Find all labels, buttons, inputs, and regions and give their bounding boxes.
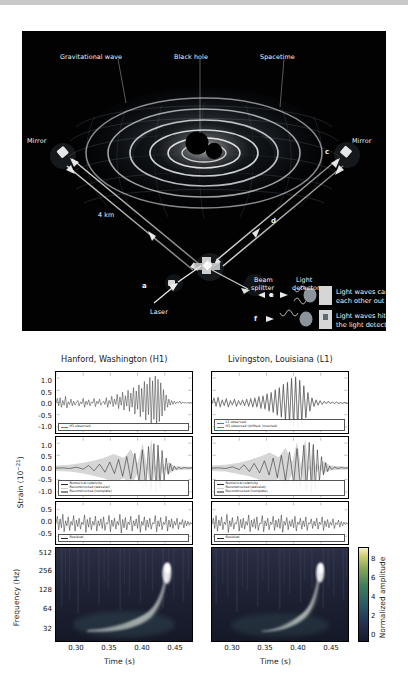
- ytick-freq-512: 512: [20, 549, 52, 557]
- legend-key-nr-l1: [217, 484, 224, 485]
- strain-plots: Hanford, Washington (H1) Livingston, Lou…: [0, 340, 408, 685]
- legend-l1-residual: Residual: [214, 534, 345, 542]
- ytick-r3-0p5: 0.5: [28, 506, 52, 514]
- ytick-freq-256: 256: [20, 567, 52, 575]
- cbtick-0: 0: [371, 631, 383, 639]
- cbtick-8: 8: [371, 555, 383, 563]
- ytick-r3-0p0: 0.0: [28, 518, 52, 526]
- l1-spectrogram-image: [212, 548, 348, 641]
- xtick-l1-040: 0.40: [287, 644, 309, 652]
- legend-key-nr-h1: [61, 484, 68, 485]
- ytick-r1-0p5: 0.5: [28, 389, 52, 397]
- panel-h1-residual: Residual: [55, 501, 193, 545]
- interferometer-diagram: Gravitational wave Black hole Spacetime …: [22, 31, 386, 331]
- panel-l1-spectrogram: [211, 547, 349, 642]
- marker-e: e: [269, 291, 274, 299]
- marker-a: a: [142, 282, 147, 290]
- marker-f: f: [254, 315, 257, 323]
- legend-h1-residual: Residual: [58, 534, 189, 542]
- legend-key-residual-l1: [217, 538, 224, 539]
- label-arm-length: 4 km: [98, 211, 114, 219]
- xtick-h1-030: 0.30: [65, 644, 87, 652]
- panel-h1-observed: H1 observed: [55, 371, 193, 434]
- diagram-graphics: [22, 31, 386, 331]
- ytick-r3-m0p5: -0.5: [24, 530, 52, 538]
- label-mirror-left: Mirror: [27, 137, 46, 145]
- label-gravitational-wave: Gravitational wave: [60, 53, 122, 61]
- ytick-r2-m1p0: -1.0: [24, 488, 52, 496]
- legend-key-wavelet-h1: [61, 488, 68, 489]
- cbtick-6: 6: [371, 574, 383, 582]
- panel-l1-residual: Residual: [211, 501, 349, 545]
- cbtick-2: 2: [371, 612, 383, 620]
- title-hanford: Hanford, Washington (H1): [61, 354, 167, 364]
- label-beam-splitter-line1: Beam: [254, 276, 273, 284]
- legend-text-residual-h1: Residual: [70, 536, 84, 540]
- marker-b: b: [207, 260, 212, 268]
- legend-key-h1-shift: [217, 427, 224, 428]
- label-cancel-line1: Light waves cancel: [336, 288, 386, 297]
- panel-h1-spectrogram: [55, 547, 193, 642]
- xlabel-l1: Time (s): [260, 657, 291, 666]
- legend-key-h1: [61, 427, 68, 428]
- panel-l1-observed: L1 observed H1 observed (shifted, invert…: [211, 371, 349, 434]
- ytick-r2-0p0: 0.0: [28, 465, 52, 473]
- panel-h1-reconstructed: Numerical relativity Reconstructed (wave…: [55, 436, 193, 499]
- title-livingston: Livingston, Louisiana (L1): [228, 354, 333, 364]
- colorbar: [358, 547, 369, 642]
- marker-d: d: [271, 217, 276, 225]
- xtick-h1-045: 0.45: [164, 644, 186, 652]
- xtick-l1-030: 0.30: [221, 644, 243, 652]
- label-laser: Laser: [150, 308, 168, 316]
- label-light-detector-line1: Light: [296, 276, 312, 284]
- ytick-r1-1p0: 1.0: [28, 377, 52, 385]
- legend-key-residual-h1: [61, 538, 68, 539]
- ytick-freq-128: 128: [20, 586, 52, 594]
- legend-text-h1-shift: H1 observed (shifted, inverted): [226, 425, 278, 429]
- ytick-r1-m1p0: -1.0: [24, 423, 52, 431]
- label-light-detector-line2: detector: [292, 284, 320, 292]
- ytick-r1-m0p5: -0.5: [24, 412, 52, 420]
- figure-root: Gravitational wave Black hole Spacetime …: [0, 0, 408, 685]
- h1-spectrogram-image: [56, 548, 192, 641]
- label-hit-line1: Light waves hit: [336, 312, 386, 321]
- label-spacetime: Spacetime: [260, 53, 295, 61]
- legend-key-l1: [217, 423, 224, 424]
- ytick-freq-32: 32: [20, 625, 52, 633]
- ytick-r1-0p0: 0.0: [28, 400, 52, 408]
- legend-key-template-h1: [61, 491, 68, 493]
- label-cancel-line2: each other out: [336, 297, 384, 306]
- legend-text-residual-l1: Residual: [226, 536, 240, 540]
- legend-text-template-h1: Reconstructed (template): [70, 490, 112, 494]
- legend-l1-observed: L1 observed H1 observed (shifted, invert…: [214, 419, 345, 431]
- xtick-l1-045: 0.45: [320, 644, 342, 652]
- legend-h1-reconstructed: Numerical relativity Reconstructed (wave…: [58, 480, 189, 496]
- ytick-r2-0p5: 0.5: [28, 453, 52, 461]
- xlabel-h1: Time (s): [104, 657, 135, 666]
- xtick-h1-035: 0.35: [98, 644, 120, 652]
- legend-key-wavelet-l1: [217, 488, 224, 489]
- legend-text-template-l1: Reconstructed (template): [226, 490, 268, 494]
- ylabel-frequency: Frequency (Hz): [12, 567, 21, 629]
- ytick-freq-64: 64: [20, 605, 52, 613]
- legend-l1-reconstructed: Numerical relativity Reconstructed (wave…: [214, 480, 345, 496]
- legend-h1-observed: H1 observed: [58, 423, 189, 431]
- cbtick-4: 4: [371, 593, 383, 601]
- xtick-l1-035: 0.35: [254, 644, 276, 652]
- ytick-r2-m0p5: -0.5: [24, 476, 52, 484]
- colorbar-gradient: [359, 548, 368, 641]
- marker-c: c: [325, 148, 329, 156]
- legend-text-h1: H1 observed: [70, 425, 91, 429]
- label-black-hole: Black hole: [174, 53, 208, 61]
- label-mirror-right: Mirror: [352, 137, 371, 145]
- ytick-r2-1p0: 1.0: [28, 442, 52, 450]
- panel-l1-reconstructed: Numerical relativity Reconstructed (wave…: [211, 436, 349, 499]
- label-hit-line2: the light detector: [336, 321, 386, 330]
- xtick-h1-040: 0.40: [131, 644, 153, 652]
- legend-key-template-l1: [217, 491, 224, 493]
- top-border-bar: [0, 0, 408, 5]
